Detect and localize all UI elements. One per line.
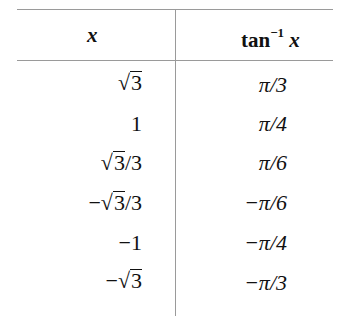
cell-x-6: −√3: [106, 268, 143, 294]
cell-x-3: √3/3: [101, 150, 142, 176]
cell-tan-4: −π/6: [244, 190, 287, 216]
sqrt: √3: [101, 190, 125, 216]
cell-tan-2: π/4: [259, 111, 287, 137]
sqrt: √3: [101, 150, 125, 176]
cell-tan-5: −π/4: [244, 230, 287, 256]
cell-tan-3: π/6: [259, 150, 287, 176]
cell-tan-6: −π/3: [244, 270, 287, 296]
header-arctan: tan−1 x: [241, 22, 300, 53]
column-divider: [175, 9, 176, 316]
cell-tan-1: π/3: [259, 72, 287, 98]
inverse-tangent-table: x tan−1 x √3 π/3 1 π/4 √3/3 π/6 −√3/3 −π…: [17, 0, 333, 336]
cell-x-4: −√3/3: [88, 190, 142, 216]
header-tan: tan: [241, 28, 270, 52]
cell-x-2: 1: [131, 111, 142, 137]
header-x: x: [87, 22, 98, 48]
header-var: x: [289, 28, 300, 52]
header-exponent: −1: [270, 25, 284, 40]
sqrt: √3: [118, 268, 142, 294]
sqrt: √3: [118, 70, 142, 96]
cell-x-5: −1: [119, 230, 142, 256]
cell-x-1: √3: [118, 70, 142, 96]
